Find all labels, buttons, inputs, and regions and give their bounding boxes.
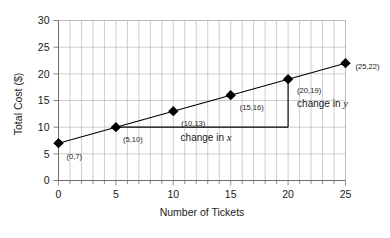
y-tick-label: 10: [38, 121, 50, 133]
y-tick-label: 30: [38, 14, 50, 26]
chart-canvas: 0510152025 051015202530 (0,7)(5,10)(10,1…: [0, 0, 390, 238]
y-tick-label: 25: [38, 41, 50, 53]
y-tick-label: 20: [38, 68, 50, 80]
annotation-variable: y: [342, 98, 348, 109]
x-tick-label: 0: [56, 188, 62, 200]
x-axis-title: Number of Tickets: [160, 206, 245, 218]
x-tick-label: 25: [340, 188, 352, 200]
line-chart: 0510152025 051015202530 (0,7)(5,10)(10,1…: [0, 0, 390, 238]
data-point-label: (15,16): [240, 103, 265, 112]
y-axis-title: Total Cost ($): [12, 73, 24, 135]
y-tick-label: 15: [38, 94, 50, 106]
change-in-x-label: change in x: [181, 132, 232, 143]
data-point-label: (20,19): [297, 86, 322, 95]
x-tick-label: 5: [113, 188, 119, 200]
annotation-text: change in: [297, 98, 343, 109]
data-point-label: (5,10): [123, 135, 143, 144]
x-tick-label: 20: [282, 188, 294, 200]
x-tick-label: 10: [167, 188, 179, 200]
y-tick-label: 5: [44, 148, 50, 160]
change-in-y-label: change in y: [297, 98, 348, 109]
data-point-label: (10,13): [181, 119, 206, 128]
annotation-text: change in: [181, 132, 227, 143]
data-point-label: (0,7): [67, 152, 83, 161]
data-point-label: (25,22): [356, 62, 381, 71]
annotation-variable: x: [226, 132, 232, 143]
y-tick-label: 0: [44, 174, 50, 186]
x-tick-label: 15: [225, 188, 237, 200]
